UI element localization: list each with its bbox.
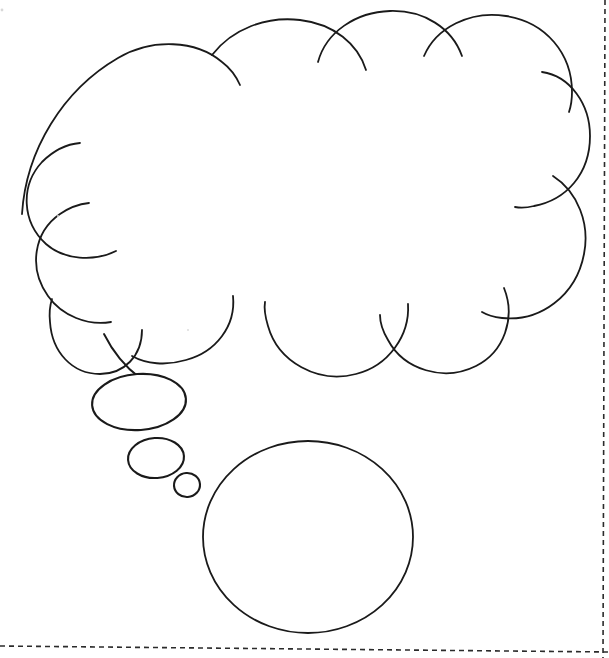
paper-speck — [57, 215, 59, 217]
thought-cloud — [15, 11, 592, 378]
paper-speck — [1, 9, 4, 12]
drawing-canvas — [0, 0, 609, 658]
thought-bubble-svg — [0, 0, 609, 658]
paper-speck — [187, 329, 189, 331]
